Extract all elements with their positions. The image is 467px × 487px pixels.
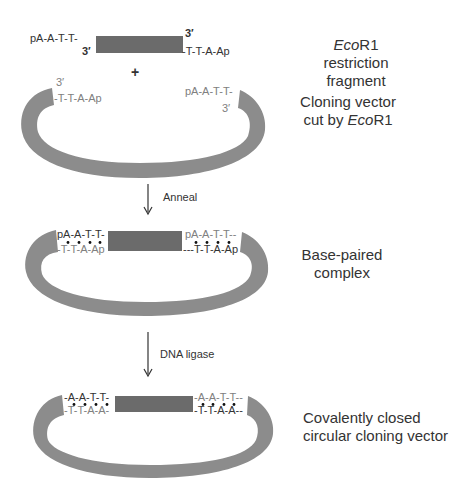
stage3-left-top-seq: pA-A-T-T-	[57, 228, 105, 240]
stage2-right-seq: pA-A-T-T-	[185, 85, 233, 97]
stage2-label: Cloning vector cut by EcoR1	[300, 93, 396, 129]
stage4-left-bottom-seq: -T-T-A-A-	[64, 404, 110, 416]
stage1-top-left-seq: pA-A-T-T-	[30, 32, 78, 44]
stage2-label-post: R1	[373, 111, 392, 128]
stage4-right-top-seq: -A-A-T-T--	[194, 391, 243, 403]
stage3-label-line1: Base-paired	[300, 246, 384, 264]
dna-ligase-label: DNA ligase	[160, 348, 214, 360]
stage1-top-right-prime: 3′	[185, 27, 194, 39]
stage3-left-bottom-seq: -T-T-A-Ap	[57, 243, 105, 255]
ligated-insert	[115, 396, 193, 412]
anneal-label: Anneal	[163, 191, 197, 203]
stage4-label: Covalently closed circular cloning vecto…	[303, 409, 453, 445]
stage4-right-bottom-seq: -T-T-A-A--	[194, 404, 243, 416]
stage3-right-bottom-seq: ---T-T-A-Ap	[183, 243, 238, 255]
stage1-label-italic: Eco	[333, 36, 359, 53]
stage1-bottom-right-seq: -T-T-A-Ap	[182, 45, 230, 57]
annealed-insert	[108, 231, 182, 251]
stage2-left-prime: 3′	[56, 76, 64, 88]
stage2-left-seq: -T-T-A-Ap	[54, 92, 102, 104]
stage2-right-prime: 3′	[222, 102, 230, 114]
stage2-label-pre: cut by	[303, 111, 347, 128]
stage3-label: Base-paired complex	[300, 246, 384, 282]
stage4-label-line1: Covalently closed	[303, 409, 453, 427]
stage1-label: EcoR1 restriction fragment	[300, 36, 412, 90]
plus-sign: +	[131, 64, 139, 80]
stage3-label-line2: complex	[300, 264, 384, 282]
stage2-label-italic: Eco	[348, 111, 374, 128]
stage4-left-top-seq: -A-A-T-T-	[64, 391, 110, 403]
stage2-label-line1: Cloning vector	[300, 93, 396, 111]
stage4-label-line2: circular cloning vector	[303, 427, 453, 445]
stage3-right-top-seq: pA-A-T-T--	[185, 228, 237, 240]
insert-fragment	[96, 36, 183, 53]
stage1-label-line2: fragment	[300, 72, 412, 90]
stage1-bottom-left-prime: 3′	[82, 45, 91, 57]
